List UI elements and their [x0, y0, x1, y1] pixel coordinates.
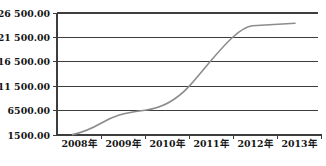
y-tick-label-26500: 26 500.00 — [0, 8, 50, 19]
y-tick-labels: 26 500.00 21 500.00 16 500.00 11 500.00 … — [0, 8, 50, 141]
y-tick-label-1500: 1500.00 — [8, 130, 51, 141]
gridlines — [57, 13, 318, 111]
chart-canvas: 26 500.00 21 500.00 16 500.00 11 500.00 … — [0, 0, 326, 166]
x-tick-label-2010: 2010年 — [149, 138, 185, 149]
y-tick-marks — [53, 13, 57, 135]
y-tick-label-6500: 6500.00 — [8, 105, 51, 116]
y-tick-label-21500: 21 500.00 — [0, 32, 50, 43]
series-line-0 — [73, 23, 296, 134]
y-tick-label-11500: 11 500.00 — [0, 81, 50, 92]
x-tick-label-2011: 2011年 — [193, 138, 229, 149]
x-tick-label-2013: 2013年 — [281, 138, 317, 149]
series-group — [73, 23, 296, 134]
axes — [57, 13, 322, 135]
line-chart: 26 500.00 21 500.00 16 500.00 11 500.00 … — [0, 0, 326, 166]
x-tick-labels: 2008年 2009年 2010年 2011年 2012年 2013年 — [61, 138, 317, 149]
x-tick-label-2009: 2009年 — [105, 138, 141, 149]
y-tick-label-16500: 16 500.00 — [0, 56, 50, 67]
x-tick-label-2008: 2008年 — [61, 138, 97, 149]
x-tick-label-2012: 2012年 — [237, 138, 273, 149]
